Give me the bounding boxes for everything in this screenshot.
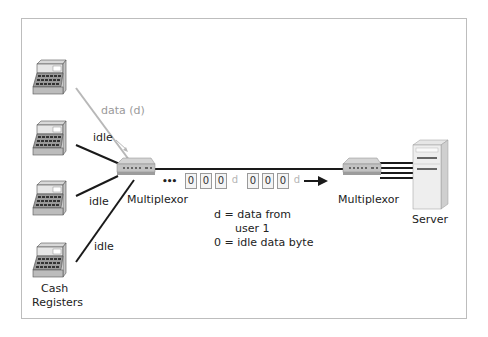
legend-line-1: d = data from (214, 208, 291, 222)
data-label: data (d) (101, 104, 145, 117)
legend-line-3: 0 = idle data byte (214, 236, 313, 250)
multiplexor-left-icon (117, 158, 155, 175)
byte-cell: 0 (215, 173, 227, 189)
server-label: Server (412, 213, 448, 226)
cash-register-icon-1 (33, 60, 66, 94)
byte-cell: 0 (277, 173, 289, 189)
multiplexor-left-label: Multiplexor (127, 193, 188, 206)
byte-cell-data: d (291, 173, 303, 189)
server-icon (413, 140, 448, 209)
cash-label: Cash (41, 282, 68, 295)
ellipsis: ••• (162, 175, 176, 188)
cash-register-icon-4 (33, 243, 66, 277)
byte-cell: 0 (200, 173, 212, 189)
idle-line-2 (76, 176, 118, 196)
byte-cell: 0 (185, 173, 197, 189)
arrow-right-icon (318, 176, 328, 186)
cash-register-icon-2 (33, 121, 66, 155)
idle-label-3: idle (94, 240, 114, 253)
cash-register-icon-3 (33, 181, 66, 215)
data-line (76, 88, 135, 168)
byte-cell-data: d (229, 173, 241, 189)
byte-cell: 0 (262, 173, 274, 189)
registers-label: Registers (32, 296, 83, 309)
byte-cell: 0 (247, 173, 259, 189)
idle-label-1: idle (93, 131, 113, 144)
multiplexor-right-icon (343, 158, 381, 175)
multiplexor-right-label: Multiplexor (338, 193, 399, 206)
diagram-canvas (0, 0, 488, 337)
idle-label-2: idle (89, 195, 109, 208)
legend-line-2: user 1 (235, 222, 270, 236)
idle-line-1 (76, 145, 122, 165)
